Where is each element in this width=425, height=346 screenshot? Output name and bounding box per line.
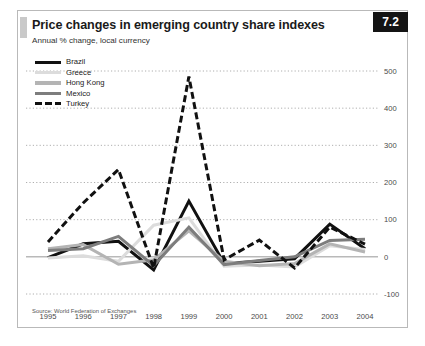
x-axis-tick-label: 2000 — [216, 312, 233, 321]
figure-panel: Price changes in emerging country share … — [17, 10, 408, 328]
legend-swatch-icon — [35, 102, 61, 105]
y-axis-tick-label: 300 — [384, 141, 397, 150]
x-axis-tick-label: 2003 — [321, 312, 338, 321]
y-axis-tick-label: 0 — [384, 253, 388, 262]
x-axis-tick-label: 2001 — [251, 312, 268, 321]
y-axis-tick-label: 100 — [384, 215, 397, 224]
x-axis-tick-label: 2004 — [357, 312, 374, 321]
legend-item-label: Greece — [66, 69, 91, 77]
legend-item-hong-kong: Hong Kong — [35, 78, 104, 88]
x-axis-tick-label: 2002 — [286, 312, 303, 321]
legend-item-mexico: Mexico — [35, 88, 104, 98]
legend-item-label: Brazil — [66, 58, 85, 66]
y-axis-tick-label: 200 — [384, 178, 397, 187]
y-axis-tick-label: -100 — [384, 290, 399, 299]
legend-item-label: Turkey — [66, 100, 89, 108]
title-accent-bar — [20, 17, 27, 38]
y-axis-tick-label: 500 — [384, 67, 397, 76]
page-title: Price changes in emerging country share … — [32, 18, 325, 32]
legend-item-label: Mexico — [66, 90, 90, 98]
legend-item-label: Hong Kong — [66, 79, 104, 87]
chart-legend: BrazilGreeceHong KongMexicoTurkey — [35, 57, 104, 109]
series-line-brazil — [48, 201, 365, 270]
legend-item-greece: Greece — [35, 67, 104, 77]
legend-swatch-icon — [35, 81, 61, 84]
legend-item-turkey: Turkey — [35, 99, 104, 109]
legend-swatch-icon — [35, 71, 61, 74]
figure-subtitle: Annual % change, local currency — [32, 36, 150, 45]
chart-plot-area: -100010020030040050019951996199719981999… — [18, 51, 409, 329]
figure-header: Price changes in emerging country share … — [18, 11, 409, 51]
x-axis-tick-label: 1998 — [145, 312, 162, 321]
legend-swatch-icon — [35, 92, 61, 95]
figure-number-badge: 7.2 — [373, 12, 408, 32]
legend-swatch-icon — [35, 61, 61, 64]
source-note: Source: World Federation of Exchanges — [32, 308, 136, 314]
x-axis-tick-label: 1999 — [180, 312, 197, 321]
y-axis-tick-label: 400 — [384, 104, 397, 113]
legend-item-brazil: Brazil — [35, 57, 104, 67]
